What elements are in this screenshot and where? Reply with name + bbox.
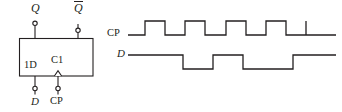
qbar-overbar-text: Q	[74, 2, 83, 14]
cp-waveform	[130, 21, 336, 35]
d-waveform	[130, 55, 336, 69]
cp-input-label: CP	[50, 96, 63, 107]
qbar-output-label: Q	[74, 2, 83, 14]
qbar-output-terminal	[76, 28, 80, 32]
d-input-terminal	[33, 86, 37, 90]
q-output-terminal	[33, 21, 37, 25]
figure-root: Q Q 1D C1 D CP CP D	[0, 0, 342, 112]
waveform-cp-label: CP	[107, 28, 120, 39]
d-input-label: D	[31, 96, 39, 107]
cp-input-terminal	[56, 86, 60, 90]
waveform-d-label: D	[117, 48, 125, 59]
internal-clock-label: C1	[51, 55, 63, 66]
q-output-label: Q	[31, 2, 40, 14]
internal-data-label: 1D	[24, 60, 37, 71]
